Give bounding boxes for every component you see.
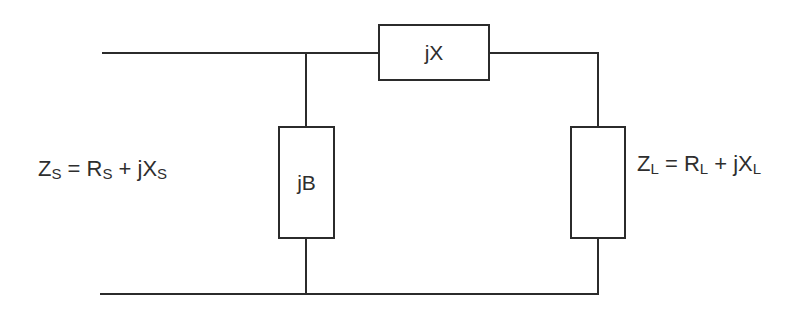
series-reactance-box: jX bbox=[378, 24, 490, 81]
circuit-diagram: jX jB ZS = RS + jXS ZL = RL + jXL bbox=[0, 0, 807, 310]
subscript-s: S bbox=[157, 165, 167, 182]
subscript-s: S bbox=[51, 165, 61, 182]
symbol-z: Z bbox=[637, 151, 650, 176]
shunt-wire-bottom bbox=[305, 238, 307, 295]
symbol-z: Z bbox=[38, 156, 51, 181]
top-wire-right bbox=[489, 52, 599, 54]
series-reactance-label: jX bbox=[425, 41, 444, 65]
shunt-wire-top bbox=[305, 52, 307, 127]
subscript-l: L bbox=[650, 160, 658, 177]
subscript-s: S bbox=[102, 165, 112, 182]
symbol-r: R bbox=[684, 151, 700, 176]
plus-jx: + jX bbox=[112, 156, 157, 181]
load-wire-top bbox=[597, 52, 599, 127]
source-impedance-label: ZS = RS + jXS bbox=[38, 158, 167, 180]
shunt-susceptance-box: jB bbox=[278, 126, 335, 239]
load-impedance-box bbox=[570, 126, 626, 239]
subscript-l: L bbox=[753, 160, 761, 177]
shunt-susceptance-label: jB bbox=[297, 171, 316, 195]
load-wire-bottom bbox=[597, 238, 599, 295]
symbol-r: R bbox=[87, 156, 103, 181]
bottom-wire bbox=[100, 293, 599, 295]
top-wire-left bbox=[102, 52, 379, 54]
plus-jx: + jX bbox=[708, 151, 753, 176]
equals-sign: = bbox=[659, 151, 684, 176]
load-impedance-label: ZL = RL + jXL bbox=[637, 153, 761, 175]
subscript-l: L bbox=[700, 160, 708, 177]
equals-sign: = bbox=[61, 156, 86, 181]
